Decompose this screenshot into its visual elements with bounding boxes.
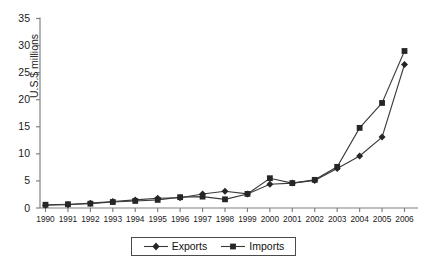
y-tick-label: 15 — [8, 121, 30, 132]
axis-lines — [36, 18, 418, 209]
y-tick-label: 35 — [8, 13, 30, 24]
legend-label-imports: Imports — [249, 241, 284, 252]
y-tick-label: 30 — [8, 40, 30, 51]
data-series-layer — [42, 48, 408, 209]
legend-marker-square-icon — [220, 241, 246, 252]
chart-container: U.S.$ millions 05101520253035 1990199119… — [0, 0, 427, 263]
y-tick-label: 5 — [8, 175, 30, 186]
y-tick-label: 10 — [8, 148, 30, 159]
legend-item-imports[interactable]: Imports — [220, 241, 284, 252]
y-tick-label: 20 — [8, 94, 30, 105]
x-axis-ticks — [46, 208, 405, 212]
legend-marker-diamond-icon — [143, 241, 169, 252]
chart-legend: Exports Imports — [131, 237, 296, 256]
legend-label-exports: Exports — [172, 241, 208, 252]
y-tick-label: 25 — [8, 67, 30, 78]
x-tick-label: 2006 — [392, 215, 418, 223]
y-tick-label: 0 — [8, 203, 30, 214]
legend-item-exports[interactable]: Exports — [143, 241, 208, 252]
